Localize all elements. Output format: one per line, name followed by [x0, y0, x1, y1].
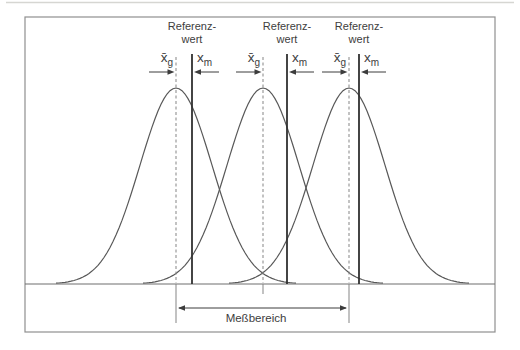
diagram-canvas: [0, 0, 520, 350]
measuring-range-label: Meßbereich: [226, 312, 287, 324]
reference-value-label-line2: wert: [263, 33, 311, 46]
reference-value-label: Referenz- wert: [168, 20, 216, 45]
measurement-deviation-diagram: Referenz- wert x̄g xm Referenz- wert x̄g…: [0, 0, 520, 350]
mean-value-symbol-sub: g: [254, 57, 260, 68]
reference-value-label-line2: wert: [335, 33, 383, 46]
reference-symbol: xm: [292, 50, 307, 70]
reference-value-label: Referenz- wert: [335, 20, 383, 45]
reference-value-label-line2: wert: [168, 33, 216, 46]
arrowhead: [255, 69, 262, 75]
reference-symbol-sub: m: [204, 57, 212, 68]
figure-frame: [25, 17, 495, 332]
mean-value-symbol-sub: g: [340, 57, 346, 68]
arrowhead: [168, 69, 175, 75]
mean-value-symbol: x̄g: [248, 50, 260, 70]
reference-value-label-line1: Referenz-: [335, 20, 383, 33]
mean-value-symbol: x̄g: [161, 50, 173, 70]
reference-symbol-sub: m: [299, 57, 307, 68]
arrowhead: [361, 69, 368, 75]
reference-symbol-base: x: [292, 50, 299, 65]
reference-value-label-line1: Referenz-: [168, 20, 216, 33]
reference-symbol-sub: m: [371, 57, 379, 68]
reference-value-label-line1: Referenz-: [263, 20, 311, 33]
reference-value-label: Referenz- wert: [263, 20, 311, 45]
arrowhead: [194, 69, 201, 75]
reference-symbol-base: x: [197, 50, 204, 65]
reference-symbol: xm: [197, 50, 212, 70]
arrowhead: [341, 69, 348, 75]
mean-value-symbol-base: x̄: [334, 50, 341, 65]
reference-symbol-base: x: [364, 50, 371, 65]
arrowhead: [340, 305, 347, 311]
mean-value-symbol: x̄g: [334, 50, 346, 70]
arrowhead: [178, 305, 185, 311]
reference-symbol: xm: [364, 50, 379, 70]
arrowhead: [289, 69, 296, 75]
mean-value-symbol-base: x̄: [161, 50, 168, 65]
mean-value-symbol-base: x̄: [248, 50, 255, 65]
mean-value-symbol-sub: g: [167, 57, 173, 68]
